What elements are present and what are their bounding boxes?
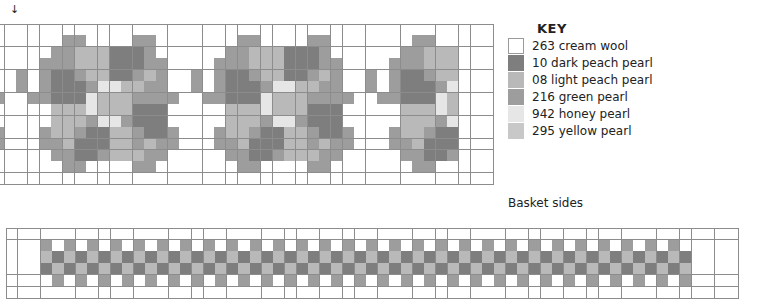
chart-cell [296, 35, 308, 47]
chart-cell [366, 127, 378, 139]
chart-cell [331, 228, 343, 240]
chart-cell [645, 275, 657, 287]
key-label: 295 yellow pearl [532, 123, 631, 139]
chart-cell [529, 287, 541, 299]
chart-cell [320, 275, 332, 287]
chart-cell [29, 228, 41, 240]
chart-cell [366, 58, 378, 70]
chart-cell [284, 81, 296, 93]
chart-cell [122, 228, 134, 240]
chart-cell [296, 161, 308, 173]
chart-cell [87, 240, 99, 252]
chart-cell [99, 263, 111, 275]
chart-cell [482, 150, 494, 162]
chart-cell [238, 35, 250, 47]
chart-cell [506, 251, 518, 263]
chart-cell [575, 228, 587, 240]
chart-cell [331, 150, 343, 162]
chart-cell [63, 93, 75, 105]
chart-cell [506, 263, 518, 275]
chart-cell [52, 228, 64, 240]
chart-cell [377, 104, 389, 116]
chart-cell [645, 251, 657, 263]
chart-cell [319, 139, 331, 151]
chart-cell [459, 81, 471, 93]
chart-cell [261, 127, 273, 139]
chart-cell [482, 104, 494, 116]
chart-cell [16, 139, 28, 151]
chart-cell [285, 251, 297, 263]
chart-cell [110, 35, 122, 47]
chart-cell [343, 150, 355, 162]
chart-cell [64, 275, 76, 287]
chart-cell [51, 116, 63, 128]
chart-cell [28, 24, 40, 36]
chart-cell [354, 58, 366, 70]
chart-cell [564, 251, 576, 263]
chart-cell [156, 70, 168, 82]
chart-cell [296, 127, 308, 139]
chart-cell [16, 161, 28, 173]
chart-cell [645, 240, 657, 252]
chart-cell [401, 104, 413, 116]
chart-cell [459, 228, 471, 240]
chart-cell [482, 116, 494, 128]
chart-cell [249, 116, 261, 128]
chart-cell [297, 240, 309, 252]
chart-cell [471, 104, 483, 116]
chart-cell [599, 263, 611, 275]
chart-cell [110, 139, 122, 151]
chart-cell [192, 228, 204, 240]
chart-cell [401, 58, 413, 70]
chart-cell [192, 287, 204, 299]
chart-cell [28, 173, 40, 185]
chart-cell [389, 275, 401, 287]
chart-cell [308, 161, 320, 173]
chart-cell [459, 104, 471, 116]
chart-cell [191, 173, 203, 185]
key-label: 263 cream wool [532, 38, 628, 54]
chart-cell [366, 150, 378, 162]
chart-cell [343, 228, 355, 240]
chart-cell [29, 251, 41, 263]
chart-cell [389, 81, 401, 93]
chart-cell [447, 104, 459, 116]
chart-cell [413, 287, 425, 299]
chart-cell [412, 139, 424, 151]
chart-cell [64, 287, 76, 299]
chart-cell [144, 104, 156, 116]
chart-cell [284, 93, 296, 105]
chart-cell [238, 251, 250, 263]
chart-cell [331, 93, 343, 105]
chart-cell [471, 161, 483, 173]
chart-cell [121, 150, 133, 162]
chart-cell [622, 228, 634, 240]
chart-cell [273, 139, 285, 151]
chart-cell [156, 35, 168, 47]
chart-cell [191, 104, 203, 116]
chart-cell [51, 58, 63, 70]
color-swatch-icon [508, 89, 524, 105]
chart-cell [203, 35, 215, 47]
chart-cell [401, 228, 413, 240]
chart-cell [76, 228, 88, 240]
chart-cell [412, 116, 424, 128]
chart-cell [599, 275, 611, 287]
chart-cell [227, 251, 239, 263]
chart-cell [424, 81, 436, 93]
chart-cell [214, 70, 226, 82]
chart-cell [424, 24, 436, 36]
chart-cell [284, 24, 296, 36]
chart-cell [110, 104, 122, 116]
chart-cell [459, 93, 471, 105]
chart-cell [447, 127, 459, 139]
chart-cell [401, 35, 413, 47]
chart-cell [703, 228, 715, 240]
chart-cell [459, 47, 471, 59]
chart-cell [40, 116, 52, 128]
chart-cell [424, 93, 436, 105]
chart-cell [168, 58, 180, 70]
chart-cell [657, 228, 669, 240]
chart-cell [121, 161, 133, 173]
chart-cell [599, 251, 611, 263]
